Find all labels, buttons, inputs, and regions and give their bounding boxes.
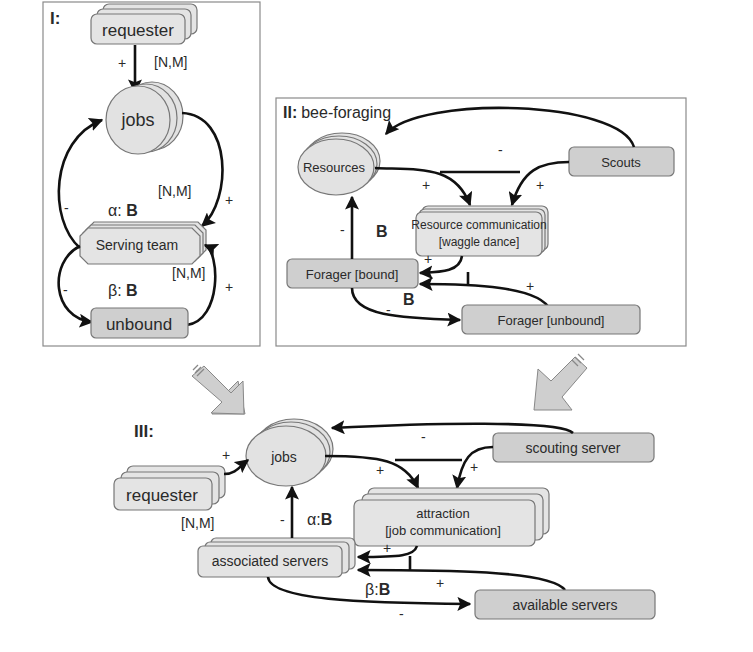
minus-sign: -: [63, 282, 68, 298]
requester-label: requester: [102, 21, 174, 40]
scouts-node[interactable]: Scouts: [569, 147, 674, 176]
unbound-node[interactable]: unbound: [91, 308, 188, 338]
plus-sign: +: [536, 177, 544, 193]
panel-iii-title: III:: [134, 422, 154, 441]
minus-sign: -: [280, 512, 285, 528]
waggle-dance-label: [waggle dance]: [439, 235, 520, 249]
resource-communication-label: Resource communication: [411, 218, 546, 232]
beta-label-iii: β:B: [365, 581, 390, 598]
plus-sign: +: [424, 251, 432, 267]
jobs-label: jobs: [270, 449, 297, 465]
nm-label: [N,M]: [172, 265, 205, 281]
plus-sign: +: [222, 447, 230, 463]
serving-team-node[interactable]: Serving team: [80, 222, 206, 264]
forager-bound-node[interactable]: Forager [bound]: [287, 259, 418, 288]
panel-iii: III: jobs requester [N,M] + scouting ser…: [114, 419, 655, 622]
diagram-canvas: I: requester [N,M] + jobs [N,M] - + α: B: [0, 0, 753, 652]
plus-sign: +: [383, 540, 391, 556]
resource-communication-node[interactable]: Resource communication [waggle dance]: [411, 206, 548, 256]
forager-bound-label: Forager [bound]: [306, 267, 399, 282]
scouting-server-node[interactable]: scouting server: [493, 433, 654, 462]
panel-ii: II:bee-foraging Resources Scouts - + + R…: [276, 98, 686, 346]
plus-sign: +: [225, 192, 233, 208]
associated-servers-node[interactable]: associated servers: [198, 538, 355, 577]
transition-arrow-right: [534, 354, 587, 410]
minus-sign: -: [340, 222, 345, 238]
attraction-label: attraction: [416, 506, 469, 521]
panel-i: I: requester [N,M] + jobs [N,M] - + α: B: [43, 2, 260, 346]
plus-sign: +: [436, 575, 444, 591]
minus-sign: -: [386, 302, 391, 318]
requester-label: requester: [126, 486, 198, 505]
plus-sign: +: [225, 279, 233, 295]
unbound-label: unbound: [106, 315, 172, 334]
nm-label: [N,M]: [154, 54, 187, 70]
edge-scouting-jobs: [332, 424, 573, 433]
forager-unbound-label: Forager [unbound]: [498, 313, 605, 328]
jobs-node-iii[interactable]: jobs: [246, 419, 333, 486]
panel-i-title: I:: [50, 9, 60, 28]
alpha-label: α: B: [108, 202, 138, 219]
resources-label: Resources: [303, 160, 366, 175]
attraction-node[interactable]: attraction [job communication]: [354, 488, 549, 546]
nm-label: [N,M]: [158, 183, 191, 199]
minus-sign: -: [498, 142, 503, 158]
minus-sign: -: [64, 200, 69, 216]
plus-sign: +: [118, 55, 126, 71]
minus-sign: -: [399, 606, 404, 622]
forager-unbound-node[interactable]: Forager [unbound]: [462, 305, 640, 334]
nm-label: [N,M]: [181, 515, 214, 531]
scouting-server-label: scouting server: [526, 440, 621, 456]
available-servers-node[interactable]: available servers: [475, 590, 655, 619]
available-servers-label: available servers: [512, 597, 617, 613]
alpha-label-iii: α:B: [307, 511, 332, 528]
beta-label: β: B: [108, 282, 138, 299]
plus-sign: +: [422, 177, 430, 193]
transition-arrow-left: [192, 365, 245, 414]
job-communication-label: [job communication]: [385, 523, 501, 538]
associated-servers-label: associated servers: [212, 553, 329, 569]
minus-sign: -: [421, 429, 426, 445]
serving-team-label: Serving team: [96, 237, 178, 253]
plus-sign: +: [376, 462, 384, 478]
b-label: B: [376, 223, 388, 240]
scouts-label: Scouts: [601, 155, 641, 170]
plus-sign: +: [470, 459, 478, 475]
b-label: B: [403, 291, 415, 308]
requester-node-iii[interactable]: requester: [114, 466, 225, 510]
jobs-label: jobs: [120, 110, 154, 130]
requester-node[interactable]: requester: [91, 4, 197, 44]
plus-sign: +: [526, 278, 534, 294]
